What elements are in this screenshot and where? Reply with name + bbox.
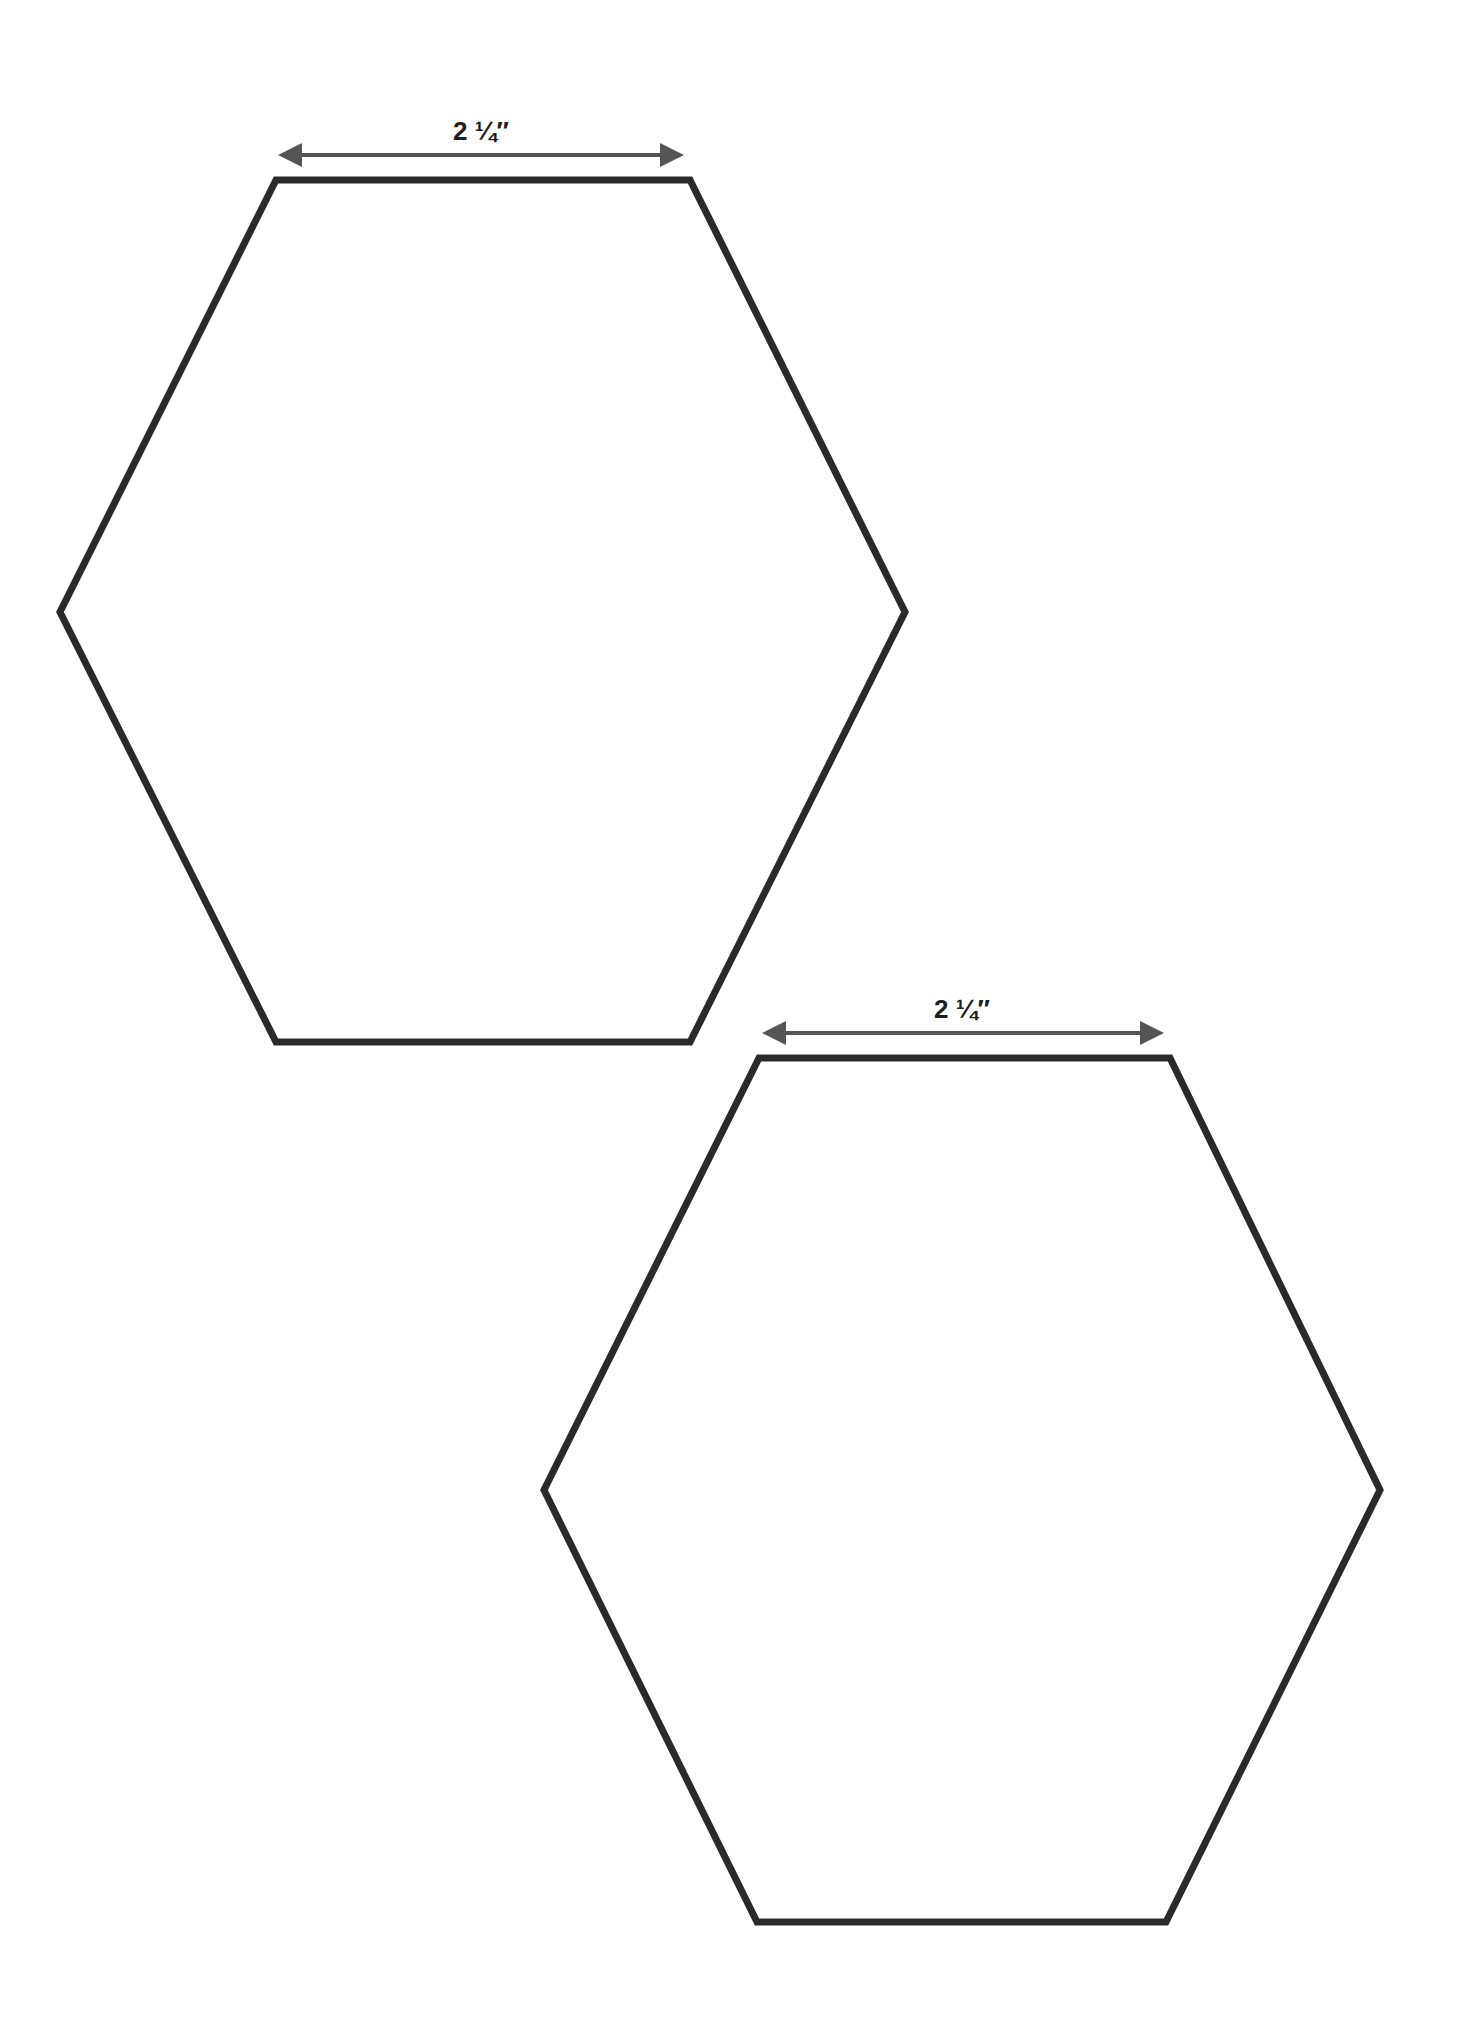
hexagon-template-sheet: 2 ¼″ 2 ¼″ xyxy=(0,0,1478,2040)
hexagon-2 xyxy=(544,1058,1380,1922)
hexagon-group-1: 2 ¼″ xyxy=(60,116,905,1042)
dimension-label-1: 2 ¼″ xyxy=(453,116,509,146)
hexagon-group-2: 2 ¼″ xyxy=(544,994,1380,1922)
hexagon-1 xyxy=(60,180,905,1042)
dimension-label-2: 2 ¼″ xyxy=(934,994,990,1024)
